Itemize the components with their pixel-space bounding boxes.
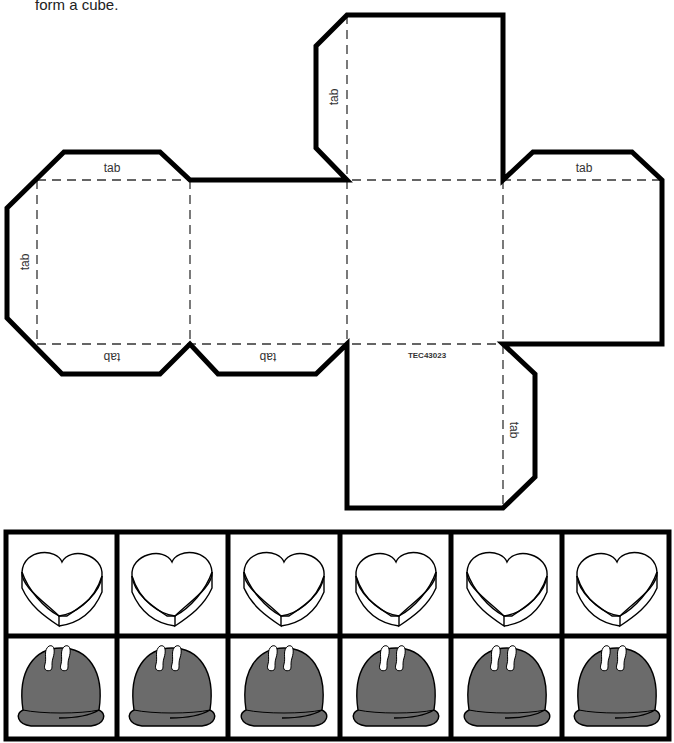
- tab-label-bottom-face-right: tab: [507, 422, 521, 439]
- chocolate-bonbon-icon: [353, 646, 438, 726]
- heart-box-icon: [22, 553, 102, 626]
- heart-box-icon: [132, 553, 212, 626]
- chocolate-bonbon-icon: [18, 646, 103, 726]
- cube-net-and-cards: tab tab tab tab tab tab tab TEC43023: [0, 0, 674, 743]
- chocolate-bonbon-icon: [464, 646, 549, 726]
- tab-label-left-face-left: tab: [18, 253, 32, 270]
- card-grid: [6, 532, 669, 739]
- heart-box-icon: [356, 553, 436, 626]
- tab-label-middle-face-bottom: tab: [259, 350, 276, 364]
- heart-box-icon: [577, 553, 657, 626]
- chocolate-bonbon-icon: [241, 646, 326, 726]
- tab-label-top-face: tab: [327, 88, 341, 105]
- tab-label-right-face-top: tab: [576, 161, 593, 175]
- product-code: TEC43023: [408, 351, 447, 360]
- tab-label-left-face-top: tab: [104, 161, 121, 175]
- heart-box-icon: [467, 553, 547, 626]
- chocolate-bonbon-icon: [129, 646, 214, 726]
- chocolate-bonbon-icon: [574, 646, 659, 726]
- tab-label-left-face-bottom: tab: [103, 350, 120, 364]
- heart-box-icon: [244, 553, 324, 626]
